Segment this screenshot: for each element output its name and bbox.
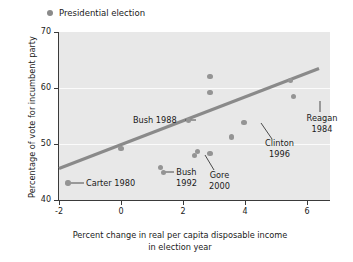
- x-axis-line: [58, 200, 330, 201]
- data-point-3: [207, 74, 212, 79]
- x-axis-label: Percent change in real per capita dispos…: [40, 229, 320, 253]
- annotation-bush-1992-line1: Bush: [176, 167, 196, 177]
- data-point-5: [229, 134, 234, 139]
- data-point-4: [207, 90, 212, 95]
- annotation-clinton-1996-line2: 1996: [269, 149, 290, 159]
- annotation-carter-1980: Carter 1980: [86, 178, 135, 189]
- x-tick-label-4: 4: [233, 207, 257, 216]
- x-tick-mark-m2: [59, 201, 60, 205]
- chart-legend: Presidential election: [47, 8, 145, 18]
- x-tick-mark-2: [183, 201, 184, 205]
- annotation-reagan-1984-line1: Reagan: [307, 113, 338, 123]
- data-point-bush-1988: [186, 118, 191, 123]
- x-tick-mark-0: [121, 201, 122, 205]
- annotation-gore-2000-line1: Gore: [210, 170, 230, 180]
- annotation-reagan-1984: Reagan1984: [302, 113, 342, 134]
- data-point-clinton-1996: [241, 120, 246, 125]
- data-point-bush-1992-a: [158, 165, 163, 170]
- scatter-chart: Presidential election 70 60 50 40 -2 0 2…: [0, 0, 353, 262]
- y-axis-line: [58, 32, 59, 201]
- circle-marker-icon: [47, 10, 53, 16]
- y-tick-mark-40: [54, 200, 58, 201]
- annotation-bush-1988: Bush 1988: [133, 115, 177, 126]
- legend-item-label: Presidential election: [59, 8, 145, 18]
- x-axis-label-line1: Percent change in real per capita dispos…: [73, 230, 288, 240]
- gridline-60: [59, 88, 330, 89]
- data-point-gore-2000-b: [192, 153, 197, 158]
- annotation-clinton-1996-line1: Clinton: [265, 138, 294, 148]
- annotation-clinton-1996: Clinton1996: [265, 138, 294, 159]
- y-axis-label: Percentage of vote for incumbent party: [27, 22, 37, 212]
- y-tick-mark-70: [54, 32, 58, 33]
- x-tick-label-0: 0: [109, 207, 133, 216]
- x-tick-label-6: 6: [295, 207, 319, 216]
- x-axis-label-line2: in election year: [148, 242, 211, 252]
- x-tick-label-2: 2: [171, 207, 195, 216]
- x-tick-mark-6: [307, 201, 308, 205]
- annotation-bush-1992: Bush1992: [176, 167, 197, 188]
- annotation-reagan-1984-line2: 1984: [312, 124, 333, 134]
- data-point-carter-1980: [65, 180, 70, 185]
- annotation-gore-2000-line2: 2000: [209, 181, 230, 191]
- x-tick-label-m2: -2: [47, 207, 71, 216]
- y-tick-mark-60: [54, 88, 58, 89]
- data-point-1: [118, 146, 123, 151]
- annotation-bush-1992-line2: 1992: [176, 178, 197, 188]
- x-tick-mark-4: [245, 201, 246, 205]
- data-point-2: [207, 151, 212, 156]
- data-point-6: [288, 78, 293, 83]
- y-tick-mark-50: [54, 144, 58, 145]
- annotation-gore-2000: Gore2000: [209, 170, 230, 191]
